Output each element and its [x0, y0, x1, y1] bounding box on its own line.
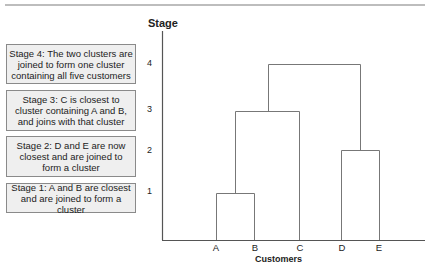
- dendrogram-links: [217, 65, 380, 241]
- leaf-e: E: [373, 242, 385, 253]
- merge-stage-4: [269, 65, 361, 151]
- leaf-c: C: [294, 242, 306, 253]
- leaf-a: A: [210, 242, 222, 253]
- merge-stage-3: [236, 112, 300, 241]
- merge-stage-1: [217, 194, 255, 241]
- leaf-d: D: [336, 242, 348, 253]
- leaf-b: B: [249, 242, 261, 253]
- dendrogram-plot: [0, 0, 425, 265]
- merge-stage-2: [342, 151, 380, 241]
- x-axis-label: Customers: [255, 254, 302, 264]
